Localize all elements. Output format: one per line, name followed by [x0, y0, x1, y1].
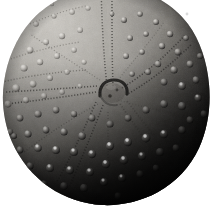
image-canvas: sea-urchin-test aboral Grayscale photogr… — [0, 0, 214, 208]
sea-urchin-photograph — [0, 0, 214, 208]
dust-speck — [186, 13, 189, 16]
